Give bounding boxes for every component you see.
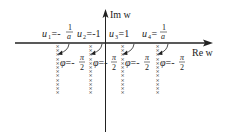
branch-cut-u2: ××××××××××××: [88, 43, 92, 95]
svg-text:1: 1: [162, 23, 166, 32]
phi-label-u4: φ =- π 2: [160, 53, 185, 72]
branch-cut-u4: ××××××××××××: [155, 43, 159, 95]
svg-text:π: π: [80, 53, 85, 62]
svg-text:π: π: [180, 53, 185, 62]
point-label-u3: u 3 =1: [109, 28, 129, 40]
imaginary-axis-label: Im w: [110, 9, 132, 20]
complex-plane-diagram: Re w Im w u 1 =- 1 a u 2 =-1 u 3 =1: [0, 0, 225, 137]
cross-mark-icon: ×: [120, 89, 124, 95]
svg-text:u: u: [77, 28, 82, 39]
svg-text:=-: =-: [52, 28, 61, 39]
cross-mark-icon: ×: [55, 89, 59, 95]
svg-text:a: a: [67, 32, 71, 41]
branch-cut-u3: ××××××××××××: [120, 43, 124, 95]
svg-text:u: u: [42, 28, 47, 39]
diagram-svg: Re w Im w u 1 =- 1 a u 2 =-1 u 3 =1: [0, 0, 225, 137]
svg-text:π: π: [145, 53, 150, 62]
svg-text:π: π: [112, 53, 117, 62]
svg-text:=-: =-: [166, 57, 175, 68]
phi-label-u3: φ =- π 2: [125, 53, 150, 72]
real-axis: [15, 40, 213, 47]
svg-text:2: 2: [145, 63, 149, 72]
point-label-u4: u 4 = 1 a: [142, 23, 167, 41]
svg-text:=-: =-: [66, 57, 75, 68]
svg-text:1: 1: [68, 23, 72, 32]
branch-cut-u1: ××××××××××××: [55, 43, 59, 95]
svg-text:=-: =-: [131, 57, 140, 68]
svg-text:a: a: [161, 32, 165, 41]
svg-text:u: u: [142, 28, 147, 39]
point-label-u2: u 2 =-1: [77, 28, 100, 40]
phi-label-u1: φ =- π 2: [60, 53, 85, 72]
imaginary-axis: [103, 9, 109, 132]
cross-mark-icon: ×: [88, 89, 92, 95]
svg-text:2: 2: [112, 63, 116, 72]
cross-mark-icon: ×: [155, 89, 159, 95]
point-label-u1: u 1 =- 1 a: [42, 23, 73, 41]
svg-text:=-1: =-1: [87, 28, 101, 39]
svg-text:2: 2: [80, 63, 84, 72]
real-axis-label: Re w: [192, 47, 214, 58]
svg-text:u: u: [109, 28, 114, 39]
svg-text:2: 2: [180, 63, 184, 72]
svg-text:=-: =-: [99, 57, 108, 68]
svg-text:=1: =1: [119, 28, 130, 39]
svg-text:=: =: [152, 28, 158, 39]
